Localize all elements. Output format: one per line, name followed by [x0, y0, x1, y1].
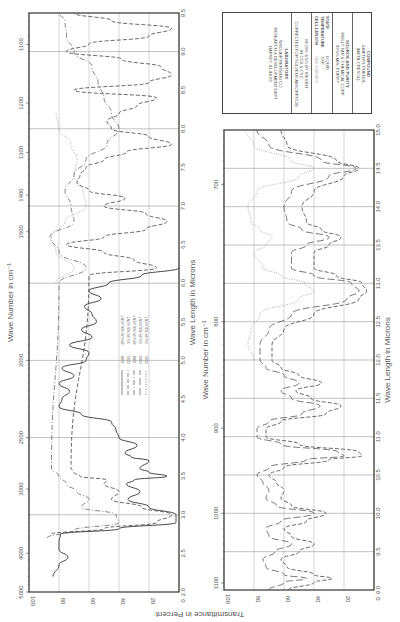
source-label: SOURCE AND PURITY: [345, 16, 350, 112]
cell-length-label: CELL LENGTH: [314, 16, 319, 56]
y-tick-label: 80: [60, 598, 66, 605]
x-tick-label: 8.5: [180, 85, 186, 94]
x-tick-label: 14.0: [375, 200, 381, 212]
wavenumber-tick-label: 800: [213, 316, 219, 327]
y-tick-label: 80: [255, 596, 261, 603]
wavenumber-tick-label: 1100: [18, 37, 24, 51]
legend-label: .0095: [139, 356, 143, 365]
y-tick-label: 0: [375, 597, 381, 601]
x-tick-label: 8.0: [180, 124, 186, 133]
legend-note: 5% IN SOLVENT: [127, 316, 131, 344]
x-tick-label: 6.5: [180, 240, 186, 249]
x-tick-label: 3.5: [180, 471, 186, 480]
wavenumber-tick-label: 900: [213, 422, 219, 433]
legend-note: 5% IN SOLVENT: [145, 316, 149, 344]
x-tick-label: 2.0: [180, 587, 186, 596]
x-tick-label: 9.5: [375, 547, 381, 556]
state-value: LIQUID: [325, 56, 330, 70]
wavenumber-tick-label: 1300: [18, 145, 24, 159]
legend-note: 5% IN SOLVENT: [139, 316, 143, 344]
laboratory-line-1: SINCLAIR REFINING CO.: [278, 16, 283, 112]
legend-label: .03M: [121, 356, 125, 364]
wavenumber-tick-label: 4000: [18, 546, 24, 560]
wavenumber-tick-label: 1100: [213, 576, 219, 590]
temperature-label: TEMPERATURE: [319, 16, 324, 56]
x-tick-label: 6.0: [180, 278, 186, 287]
conditions-section: STATELIQUID TEMPERATURE70°F CELL LENGTHS…: [311, 13, 332, 114]
spectrum-chart-1: 0204060801002.02.53.03.54.04.55.05.56.06…: [6, 8, 197, 606]
wavenumber-tick-label: 1500: [18, 224, 24, 238]
x-tick-label: 7.0: [180, 201, 186, 210]
x-tick-label: 12.0: [375, 354, 381, 366]
source-section: SOURCE AND PURITY REILLY TAR & CHEMICAL …: [332, 13, 353, 114]
compound-section: COMPOUND 3-METHYL PHENOL (META-CRESOL): [352, 13, 372, 114]
source-line-1: REILLY TAR & CHEMICAL CORP: [340, 16, 345, 112]
x-tick-label: 5.0: [180, 356, 186, 365]
wavelength-axis-title: Wave Length in Microns: [383, 317, 392, 403]
wavelength-axis-title: Wave Length in Microns: [188, 260, 197, 346]
y-tick-label: 60: [285, 596, 291, 603]
x-tick-label: 10.5: [375, 469, 381, 481]
x-tick-label: 5.5: [180, 317, 186, 326]
compound-alt-name: (META-CRESOL): [355, 16, 360, 112]
laboratory-section: LABORATORY SINCLAIR REFINING CO. RESEARC…: [266, 13, 291, 114]
legend-label: .0095: [127, 356, 131, 365]
wavenumber-tick-label: 3000: [18, 482, 24, 496]
transmittance-axis-title: Transmittance in Percent: [155, 610, 244, 619]
wavenumber-tick-label: 1400: [18, 188, 24, 202]
wavenumber-tick-label: 5000: [18, 585, 24, 599]
y-tick-label: 100: [30, 596, 36, 607]
x-tick-label: 9.0: [180, 47, 186, 56]
x-tick-label: 13.5: [375, 239, 381, 251]
y-tick-label: 20: [150, 598, 156, 605]
spectrum-curve-dashed: [52, 13, 172, 534]
y-tick-label: 40: [315, 596, 321, 603]
solution-line-3: CORRECTED FOR SOLVENT ABSORPTION: [294, 16, 299, 112]
spectrum-chart-2: 0204060801009.09.510.010.511.011.512.012…: [201, 124, 392, 605]
x-tick-label: 9.5: [180, 8, 186, 17]
sample-info-content: COMPOUND 3-METHYL PHENOL (META-CRESOL) S…: [223, 13, 372, 114]
legend-note: 20% IN SOLVENT: [121, 315, 125, 345]
x-tick-label: 2.5: [180, 549, 186, 558]
wavenumber-tick-label: 700: [213, 179, 219, 190]
laboratory-label: LABORATORY: [283, 16, 288, 112]
state-label: STATE: [325, 16, 330, 56]
cell-length-row: CELL LENGTHSEE CURVES: [314, 16, 319, 112]
y-tick-label: 60: [90, 598, 96, 605]
compound-label: COMPOUND: [366, 16, 371, 112]
chart-legend: .03M20% IN SOLVENT.00955% IN SOLVENT.03M…: [121, 315, 149, 395]
cell-length-value: SEE CURVES: [314, 56, 319, 83]
spectrum-sheet: 0204060801002.02.53.03.54.04.55.05.56.06…: [0, 0, 400, 622]
temperature-row: TEMPERATURE70°F: [319, 16, 324, 112]
x-tick-label: 10.0: [375, 507, 381, 519]
x-tick-label: 13.0: [375, 277, 381, 289]
laboratory-line-2: RESEARCH & DEVELOPMENT DEPT.: [273, 16, 278, 112]
wavenumber-tick-label: 1200: [18, 96, 24, 110]
wavenumber-tick-label: 2500: [18, 430, 24, 444]
source-line-2: 99.5% MIN. PURITY: [335, 16, 340, 112]
wavenumber-tick-label: 2000: [18, 353, 24, 367]
spectrum-curve-dotted: [52, 113, 87, 283]
x-tick-label: 9.0: [375, 585, 381, 594]
x-tick-label: 11.0: [375, 430, 381, 442]
temperature-value: 70°F: [319, 56, 324, 65]
y-tick-label: 40: [120, 598, 126, 605]
y-tick-label: 100: [225, 594, 231, 605]
solution-line-1: IN 20% & 5% BY WEIGHT: [304, 16, 309, 112]
x-tick-label: 3.0: [180, 510, 186, 519]
wavenumber-tick-label: 1000: [213, 506, 219, 520]
x-tick-label: 14.5: [375, 162, 381, 174]
legend-label: .0095: [145, 356, 149, 365]
sample-info-box: COMPOUND 3-METHYL PHENOL (META-CRESOL) S…: [222, 12, 372, 114]
y-tick-label: 0: [180, 599, 186, 603]
x-tick-label: 15.0: [375, 124, 381, 136]
spectrum-curve-solid: [53, 268, 179, 577]
x-tick-label: 7.5: [180, 163, 186, 172]
spectrum-curve-dashdot: [47, 13, 119, 538]
wavenumber-axis-title: Wave Number in cm⁻¹: [6, 263, 15, 342]
state-row: STATELIQUID: [325, 16, 330, 112]
legend-label: .03M: [133, 356, 137, 364]
x-tick-label: 11.5: [375, 392, 381, 404]
compound-name: 3-METHYL PHENOL: [361, 16, 366, 112]
y-tick-label: 20: [345, 596, 351, 603]
